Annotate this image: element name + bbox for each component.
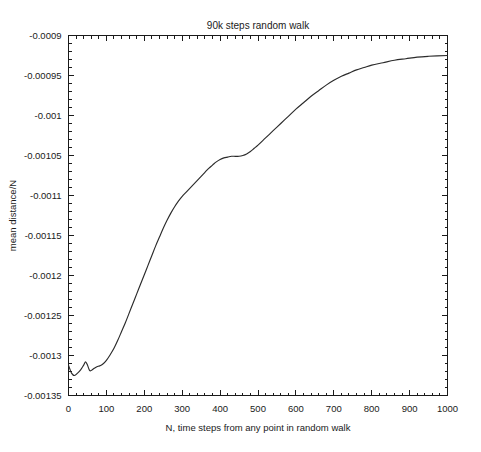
y-tick-label: -0.0013: [29, 350, 61, 361]
x-tick-label: 1000: [437, 403, 458, 414]
plot-border: [69, 36, 448, 396]
x-tick-label: 100: [98, 403, 114, 414]
y-tick-labels: -0.0009-0.00095-0.001-0.00105-0.0011-0.0…: [24, 30, 62, 401]
x-tick-labels: 01002003004005006007008009001000: [66, 403, 458, 414]
y-axis-title: mean distance/N: [7, 180, 18, 251]
chart-title: 90k steps random walk: [207, 20, 310, 31]
x-tick-label: 700: [326, 403, 342, 414]
y-tick-label: -0.00125: [24, 310, 62, 321]
y-tick-label: -0.00095: [24, 70, 62, 81]
y-tick-label: -0.00105: [24, 150, 62, 161]
x-tick-label: 0: [66, 403, 71, 414]
x-tick-label: 800: [364, 403, 380, 414]
y-tick-label: -0.001: [35, 110, 62, 121]
data-series-group: [69, 56, 448, 376]
chart-title-group: 90k steps random walk: [207, 20, 310, 31]
y-tick-label: -0.0009: [29, 30, 61, 41]
x-tick-label: 500: [250, 403, 266, 414]
x-tick-label: 600: [288, 403, 304, 414]
data-line: [69, 56, 448, 376]
x-axis-title: N, time steps from any point in random w…: [166, 422, 351, 433]
chart-figure: 90k steps random walk -0.0009-0.00095-0.…: [0, 0, 481, 452]
y-tick-label: -0.0011: [30, 190, 62, 201]
random-walk-line-chart: 90k steps random walk -0.0009-0.00095-0.…: [0, 0, 481, 452]
plot-frame: [69, 36, 448, 396]
x-tick-label: 300: [174, 403, 190, 414]
y-tick-label: -0.00135: [24, 390, 62, 401]
axis-ticks: [69, 36, 448, 396]
y-tick-label: -0.0012: [29, 270, 61, 281]
x-tick-label: 400: [212, 403, 228, 414]
y-tick-label: -0.00115: [25, 230, 62, 241]
x-tick-label: 200: [136, 403, 152, 414]
x-tick-label: 900: [402, 403, 418, 414]
